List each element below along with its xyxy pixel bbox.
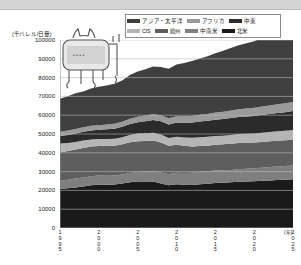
legend-item-europe: 欧州 bbox=[155, 27, 182, 35]
x-tick-label: 1995 bbox=[57, 230, 64, 253]
legend-label-asia-pacific: アジア・太平洋 bbox=[142, 17, 183, 25]
legend-label-latin-america: 中南米 bbox=[200, 27, 217, 35]
x-tick-label: 2020 bbox=[251, 230, 258, 253]
legend-swatch-africa bbox=[187, 19, 200, 23]
chart-figure: アジア・太平洋 アフリカ 中東 CIS 欧州 中南米 bbox=[0, 0, 301, 265]
y-tick-label: 50000 bbox=[38, 131, 55, 137]
stacked-area-plot bbox=[60, 40, 293, 228]
y-tick-label: 100000 bbox=[35, 37, 55, 43]
y-tick-label: 30000 bbox=[38, 169, 55, 175]
legend-row-1: アジア・太平洋 アフリカ 中東 bbox=[127, 16, 279, 26]
x-tick-label: 2015 bbox=[212, 230, 219, 253]
y-tick-label: 0 bbox=[52, 225, 55, 231]
y-tick-label: 80000 bbox=[38, 75, 55, 81]
legend-item-asia-pacific: アジア・太平洋 bbox=[127, 17, 183, 25]
x-axis-tick-labels: 1995200020052010201520202025 bbox=[60, 230, 293, 260]
legend-label-middle-east: 中東 bbox=[244, 17, 256, 25]
y-tick-label: 20000 bbox=[38, 187, 55, 193]
legend-row-2: CIS 欧州 中南米 北米 bbox=[127, 26, 279, 36]
legend-swatch-north-america bbox=[222, 29, 235, 33]
legend-swatch-europe bbox=[155, 29, 168, 33]
x-tick-label: 2000 bbox=[95, 230, 102, 253]
y-tick-label: 60000 bbox=[38, 112, 55, 118]
top-banner-strip bbox=[0, 0, 301, 10]
legend-swatch-middle-east bbox=[229, 19, 242, 23]
y-axis-tick-labels: 0100002000030000400005000060000700008000… bbox=[0, 40, 58, 228]
legend-item-north-america: 北米 bbox=[222, 27, 249, 35]
legend-label-north-america: 北米 bbox=[237, 27, 249, 35]
plot-area bbox=[60, 40, 293, 228]
legend-item-africa: アフリカ bbox=[187, 17, 225, 25]
y-tick-label: 10000 bbox=[38, 206, 55, 212]
legend-item-cis: CIS bbox=[127, 27, 151, 35]
y-tick-label: 90000 bbox=[38, 56, 55, 62]
legend-label-europe: 欧州 bbox=[170, 27, 182, 35]
legend-swatch-asia-pacific bbox=[127, 19, 140, 23]
x-tick-label: 2005 bbox=[134, 230, 141, 253]
x-tick-label: 2010 bbox=[173, 230, 180, 253]
y-tick-label: 40000 bbox=[38, 150, 55, 156]
legend-label-cis: CIS bbox=[142, 27, 151, 35]
y-tick-label: 70000 bbox=[38, 93, 55, 99]
legend-swatch-cis bbox=[127, 29, 140, 33]
chart-legend: アジア・太平洋 アフリカ 中東 CIS 欧州 中南米 bbox=[125, 14, 281, 38]
legend-label-africa: アフリカ bbox=[202, 17, 225, 25]
legend-swatch-latin-america bbox=[185, 29, 198, 33]
area-北米 bbox=[60, 179, 293, 228]
x-axis-unit-label: (年) bbox=[284, 228, 292, 235]
legend-item-middle-east: 中東 bbox=[229, 17, 256, 25]
legend-item-latin-america: 中南米 bbox=[185, 27, 217, 35]
